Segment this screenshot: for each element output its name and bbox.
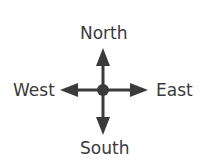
- compass-diagram: North South West East: [0, 0, 205, 162]
- west-label: West: [13, 82, 55, 99]
- south-arrow-icon: [96, 117, 110, 135]
- south-label: South: [80, 140, 129, 157]
- east-label: East: [156, 82, 193, 99]
- west-arrow-icon: [60, 83, 78, 97]
- north-arrow-icon: [96, 48, 110, 66]
- east-arrow-icon: [130, 83, 148, 97]
- center-dot-icon: [97, 84, 109, 96]
- north-label: North: [80, 25, 128, 42]
